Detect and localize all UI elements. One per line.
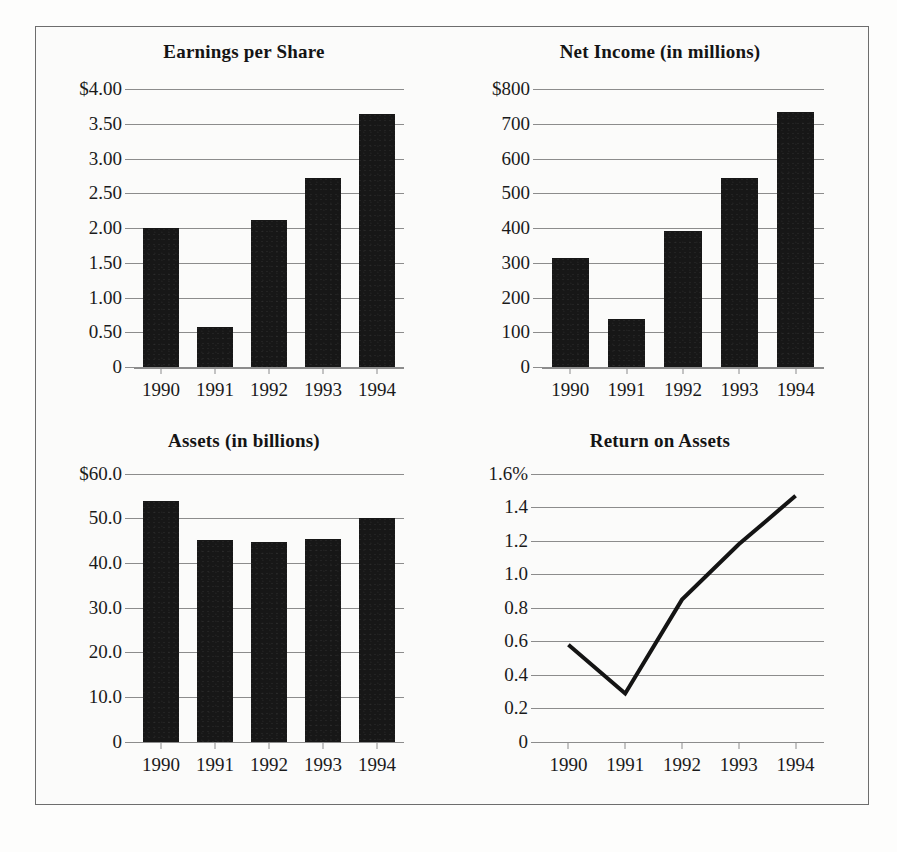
y-tick-mark — [533, 228, 542, 229]
y-axis-label: 400 — [502, 217, 531, 239]
x-axis-label: 1994 — [358, 379, 396, 401]
y-axis-label: 200 — [502, 287, 531, 309]
y-axis-label: 0.4 — [504, 664, 528, 686]
x-tick-mark — [323, 367, 324, 374]
y-axis-label: 1.2 — [504, 530, 528, 552]
y-axis-label: 10.0 — [89, 686, 122, 708]
x-axis-label: 1991 — [608, 379, 646, 401]
y-axis-label: 0 — [521, 356, 531, 378]
line-series-return-on-assets — [540, 474, 824, 742]
chart-title-return-on-assets: Return on Assets — [452, 430, 868, 452]
y-axis-label: 0.6 — [504, 630, 528, 652]
y-tick-mark — [125, 89, 134, 90]
x-axis-label: 1990 — [551, 379, 589, 401]
y-tick-mark — [531, 608, 540, 609]
bar-1994 — [359, 518, 395, 742]
plot-area-return-on-assets: 1.6%1.41.21.00.80.60.40.2019901991199219… — [540, 474, 824, 742]
y-tick-mark — [125, 193, 134, 194]
y-tick-mark — [531, 742, 540, 743]
y-axis-label: 100 — [502, 321, 531, 343]
x-axis-label: 1992 — [250, 379, 288, 401]
bar-1991 — [197, 327, 233, 367]
y-tick-mark — [531, 474, 540, 475]
x-tick-mark — [795, 742, 796, 749]
y-tick-mark — [125, 608, 134, 609]
plot-return-on-assets: 1.6%1.41.21.00.80.60.40.2019901991199219… — [540, 474, 824, 742]
x-axis-label: 1991 — [196, 754, 234, 776]
x-axis-label: 1993 — [304, 379, 342, 401]
page-canvas: Earnings per Share $4.003.503.002.502.00… — [0, 0, 897, 852]
y-axis-label: $4.00 — [79, 78, 122, 100]
y-tick-mark — [125, 518, 134, 519]
bar-1990 — [552, 258, 589, 367]
bar-1993 — [305, 178, 341, 367]
x-axis-label: 1993 — [720, 379, 758, 401]
x-tick-mark — [568, 742, 569, 749]
y-axis-label: 0 — [113, 356, 123, 378]
y-axis-label: 1.6% — [488, 463, 528, 485]
y-axis-label: 0 — [113, 731, 123, 753]
y-tick-mark — [531, 675, 540, 676]
y-tick-mark — [531, 641, 540, 642]
y-tick-mark — [531, 574, 540, 575]
y-axis-label: 0 — [519, 731, 529, 753]
y-tick-mark — [533, 159, 542, 160]
y-tick-mark — [531, 507, 540, 508]
x-tick-mark — [738, 742, 739, 749]
x-tick-mark — [161, 367, 162, 374]
y-tick-mark — [533, 367, 542, 368]
x-tick-mark — [269, 742, 270, 749]
x-tick-mark — [795, 367, 796, 374]
y-tick-mark — [125, 652, 134, 653]
x-tick-mark — [683, 367, 684, 374]
x-axis-label: 1990 — [142, 379, 180, 401]
y-axis-label: 40.0 — [89, 552, 122, 574]
y-tick-mark — [125, 697, 134, 698]
x-axis-label: 1992 — [664, 379, 702, 401]
bar-1994 — [359, 114, 395, 367]
plot-area-earnings-per-share: $4.003.503.002.502.001.501.000.500199019… — [134, 89, 404, 367]
y-tick-mark — [533, 124, 542, 125]
y-axis-label: $800 — [492, 78, 530, 100]
plot-assets: $60.050.040.030.020.010.0019901991199219… — [134, 474, 404, 742]
x-axis-label: 1991 — [196, 379, 234, 401]
panel-assets: Assets (in billions) $60.050.040.030.020… — [36, 416, 452, 805]
y-tick-mark — [533, 332, 542, 333]
y-axis-label: 2.50 — [89, 182, 122, 204]
panel-net-income: Net Income (in millions) $80070060050040… — [452, 27, 868, 416]
y-axis-label: 0.2 — [504, 697, 528, 719]
y-tick-mark — [125, 159, 134, 160]
bar-1991 — [608, 319, 645, 367]
plot-area-net-income-in-millions: $800700600500400300200100019901991199219… — [542, 89, 824, 367]
x-axis-label: 1993 — [304, 754, 342, 776]
y-axis-label: 3.00 — [89, 148, 122, 170]
y-axis-label: 700 — [502, 113, 531, 135]
bar-1991 — [197, 540, 233, 742]
chart-title-assets: Assets (in billions) — [36, 430, 452, 452]
y-tick-mark — [531, 708, 540, 709]
y-axis-label: 300 — [502, 252, 531, 274]
bar-1992 — [664, 231, 701, 367]
y-axis-label: 1.4 — [504, 496, 528, 518]
x-tick-mark — [626, 367, 627, 374]
x-tick-mark — [739, 367, 740, 374]
x-tick-mark — [377, 742, 378, 749]
y-tick-mark — [531, 541, 540, 542]
y-tick-mark — [125, 298, 134, 299]
y-axis-label: 500 — [502, 182, 531, 204]
panel-earnings-per-share: Earnings per Share $4.003.503.002.502.00… — [36, 27, 452, 416]
y-tick-mark — [125, 228, 134, 229]
y-axis-label: 600 — [502, 148, 531, 170]
x-axis-label: 1994 — [777, 754, 815, 776]
x-tick-mark — [269, 367, 270, 374]
y-tick-mark — [533, 193, 542, 194]
x-axis-label: 1992 — [250, 754, 288, 776]
figure-frame: Earnings per Share $4.003.503.002.502.00… — [35, 26, 869, 805]
plot-earnings-per-share: $4.003.503.002.502.001.501.000.500199019… — [134, 89, 404, 367]
x-tick-mark — [215, 367, 216, 374]
x-axis-label: 1991 — [606, 754, 644, 776]
bar-1990 — [143, 501, 179, 741]
y-axis-label: 0.8 — [504, 597, 528, 619]
y-tick-mark — [533, 298, 542, 299]
y-axis-label: 1.50 — [89, 252, 122, 274]
